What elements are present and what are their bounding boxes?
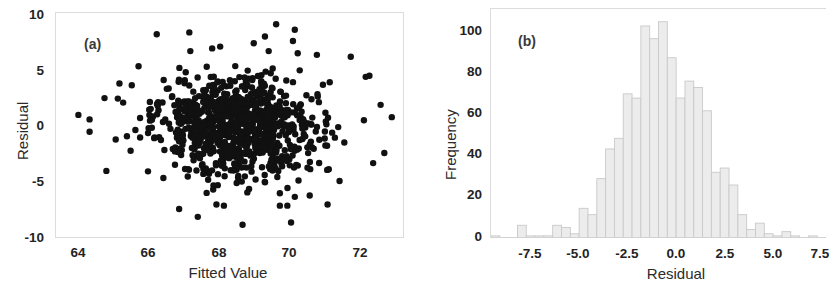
scatter-plot-frame: [55, 12, 404, 238]
scatter-xtick-70: 70: [281, 245, 296, 260]
hist-xtick-neg75: -7.5: [518, 246, 541, 261]
hist-xtick-50: 5.0: [764, 246, 783, 261]
histogram-plot-frame: [490, 8, 826, 238]
panel-a-tag: (a): [84, 36, 101, 52]
panel-b-histogram: (b) 100 80 60 40 20 0 Frequency -7.5 -5.…: [430, 0, 826, 283]
scatter-y-axis-label: Residual: [14, 102, 31, 160]
hist-ytick-100: 100: [438, 23, 482, 38]
scatter-points-layer: [56, 13, 403, 237]
scatter-ytick-neg5: -5: [12, 174, 44, 189]
scatter-x-axis-label: Fitted Value: [189, 264, 268, 281]
panel-b-tag: (b): [518, 33, 536, 49]
hist-ytick-80: 80: [438, 64, 482, 79]
scatter-xtick-68: 68: [211, 245, 226, 260]
scatter-xtick-72: 72: [352, 245, 367, 260]
hist-xtick-25: 2.5: [716, 246, 735, 261]
scatter-xtick-66: 66: [140, 245, 155, 260]
hist-y-axis-label: Frequency: [442, 109, 459, 180]
histogram-bars-layer: [491, 9, 826, 238]
hist-xtick-75: 7.5: [811, 246, 829, 261]
hist-ytick-0: 0: [438, 229, 482, 244]
scatter-ytick-neg10: -10: [12, 230, 44, 245]
hist-xtick-00: 0.0: [667, 246, 686, 261]
hist-xtick-neg50: -5.0: [566, 246, 589, 261]
scatter-ytick-10: 10: [12, 7, 44, 22]
panel-a-scatter: (a) 10 5 0 -5 -10 Residual 64 66 68 70 7…: [0, 0, 430, 283]
hist-ytick-20: 20: [438, 187, 482, 202]
hist-x-axis-label: Residual: [647, 265, 705, 282]
scatter-xtick-64: 64: [70, 245, 85, 260]
scatter-ytick-5: 5: [12, 63, 44, 78]
hist-xtick-neg25: -2.5: [615, 246, 638, 261]
